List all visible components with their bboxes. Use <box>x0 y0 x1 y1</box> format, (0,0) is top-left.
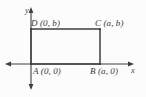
x-axis-arrow-left-icon <box>5 62 11 67</box>
vertex-dot-B <box>99 63 101 65</box>
vertex-label-D: D (0, b) <box>31 19 60 28</box>
y-axis-arrow-down-icon <box>29 84 34 90</box>
vertex-label-B: B (a, 0) <box>90 67 118 76</box>
y-axis-label: y <box>25 6 29 15</box>
geometry-figure: y x D (0, b) C (a, b) A (0, 0) B (a, 0) <box>0 0 146 97</box>
vertex-label-A: A (0, 0) <box>33 67 61 76</box>
y-axis-arrow-up-icon <box>29 7 34 13</box>
rectangle-abcd <box>31 29 100 64</box>
x-axis-label: x <box>131 66 135 75</box>
vertex-dot-D <box>30 28 32 30</box>
vertex-dot-A <box>30 63 32 65</box>
coordinate-plane-drawing <box>0 0 146 97</box>
vertex-label-C: C (a, b) <box>95 19 124 28</box>
vertex-dot-C <box>99 28 101 30</box>
